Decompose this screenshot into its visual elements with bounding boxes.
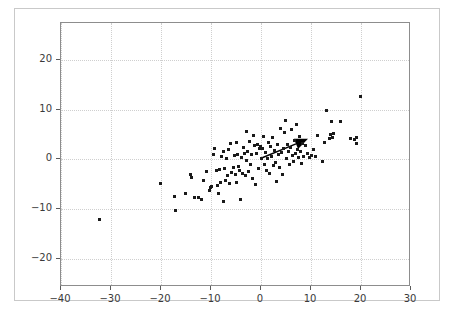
scatter-point (284, 119, 287, 122)
scatter-point (229, 142, 232, 145)
scatter-point (355, 142, 358, 145)
scatter-point (262, 135, 265, 138)
scatter-point (255, 152, 258, 155)
scatter-point (212, 153, 215, 156)
scatter-point (355, 136, 358, 139)
y-tick-mark (56, 208, 60, 209)
scatter-point (227, 148, 230, 151)
x-tick-label: 10 (290, 293, 330, 305)
scatter-point (282, 147, 285, 150)
scatter-point (273, 149, 276, 152)
scatter-point (278, 166, 281, 169)
scatter-point (232, 166, 235, 169)
scatter-point (312, 148, 315, 151)
x-tick-label: −10 (190, 293, 230, 305)
scatter-point (245, 130, 248, 133)
x-tick-label: −40 (40, 293, 80, 305)
scatter-point (248, 140, 251, 143)
scatter-point (200, 198, 203, 201)
y-tick-mark (56, 158, 60, 159)
scatter-point (220, 155, 223, 158)
scatter-point (235, 141, 238, 144)
scatter-point (295, 123, 298, 126)
x-tick-label: −20 (140, 293, 180, 305)
y-tick-label: 10 (12, 103, 52, 115)
x-tick-label: 0 (240, 293, 280, 305)
scatter-point (272, 164, 275, 167)
scatter-point (290, 128, 293, 131)
scatter-point (332, 132, 335, 135)
scatter-point (219, 181, 222, 184)
y-tick-mark (56, 109, 60, 110)
scatter-point (276, 143, 279, 146)
scatter-point (285, 157, 288, 160)
gridline-vertical (61, 23, 62, 285)
scatter-point (251, 177, 254, 180)
scatter-point (184, 192, 187, 195)
scatter-point (254, 183, 257, 186)
scatter-point (250, 153, 253, 156)
scatter-point (234, 173, 237, 176)
gridline-horizontal (61, 209, 409, 210)
scatter-point (190, 176, 193, 179)
scatter-point (339, 120, 342, 123)
scatter-point (275, 180, 278, 183)
scatter-point (287, 150, 290, 153)
scatter-point (239, 198, 242, 201)
scatter-point (242, 146, 245, 149)
scatter-point (298, 135, 301, 138)
scatter-point (325, 109, 328, 112)
scatter-point (247, 170, 250, 173)
scatter-point (292, 160, 295, 163)
scatter-point (268, 172, 271, 175)
x-tick-label: −30 (90, 293, 130, 305)
scatter-point (271, 136, 274, 139)
scatter-point (235, 181, 238, 184)
scatter-point (269, 145, 272, 148)
scatter-point (225, 157, 228, 160)
scatter-point (330, 120, 333, 123)
scatter-point (297, 156, 300, 159)
x-tick-mark (360, 286, 361, 290)
y-tick-label: 0 (12, 152, 52, 164)
x-tick-mark (110, 286, 111, 290)
y-tick-mark (56, 258, 60, 259)
scatter-point (270, 155, 273, 158)
scatter-point (279, 127, 282, 130)
x-tick-mark (410, 286, 411, 290)
scatter-point (216, 184, 219, 187)
scatter-point (314, 155, 317, 158)
scatter-point (260, 157, 263, 160)
scatter-point (257, 167, 260, 170)
scatter-point (323, 141, 326, 144)
scatter-point (289, 146, 292, 149)
matplotlib-figure: −40−30−20−100102030−20−1001020 (0, 0, 454, 317)
scatter-point (264, 151, 267, 154)
scatter-point (246, 150, 249, 153)
scatter-point (263, 163, 266, 166)
scatter-point (359, 95, 362, 98)
scatter-point (226, 174, 229, 177)
scatter-point (98, 218, 101, 221)
gridline-horizontal (61, 60, 409, 61)
x-tick-mark (160, 286, 161, 290)
scatter-point (280, 151, 283, 154)
scatter-point (293, 139, 296, 142)
scatter-point (210, 185, 213, 188)
scatter-point (306, 152, 309, 155)
scatter-point (316, 134, 319, 137)
x-tick-label: 30 (390, 293, 430, 305)
gridline-vertical (111, 23, 112, 285)
scatter-point (208, 189, 211, 192)
x-tick-label: 20 (340, 293, 380, 305)
x-tick-mark (310, 286, 311, 290)
scatter-point (294, 152, 297, 155)
scatter-point (300, 162, 303, 165)
y-tick-label: −20 (12, 252, 52, 264)
scatter-point (193, 196, 196, 199)
scatter-plot-axes (60, 22, 410, 286)
scatter-point (245, 159, 248, 162)
scatter-point (228, 182, 231, 185)
scatter-point (288, 163, 291, 166)
scatter-point (266, 157, 269, 160)
